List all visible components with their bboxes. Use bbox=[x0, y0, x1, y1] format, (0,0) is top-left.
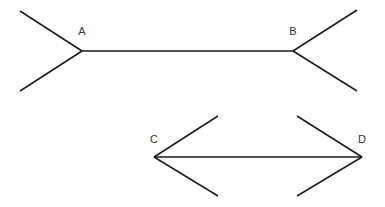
vertex-label-d: D bbox=[358, 133, 366, 145]
fin-c-lower bbox=[154, 157, 218, 196]
vertex-label-b: B bbox=[289, 25, 297, 37]
vertex-label-a: A bbox=[78, 25, 86, 37]
figure-canvas: A B ) ===== --> C D bbox=[0, 0, 385, 207]
fin-a-lower bbox=[20, 51, 82, 91]
fin-b-lower bbox=[293, 51, 357, 91]
fin-b-upper bbox=[293, 10, 357, 51]
top-figure-group: A B bbox=[20, 10, 357, 91]
muller-lyer-diagram: A B ) ===== --> C D bbox=[0, 0, 385, 207]
vertex-label-c: C bbox=[150, 133, 158, 145]
fin-c-upper bbox=[154, 116, 218, 157]
bottom-figure-group: C D bbox=[150, 116, 366, 196]
fin-a-upper bbox=[20, 11, 82, 51]
fin-d-lower bbox=[297, 157, 362, 196]
fin-d-upper bbox=[297, 116, 362, 157]
